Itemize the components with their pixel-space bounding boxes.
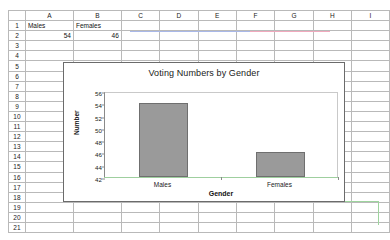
cell-c19[interactable] [121,202,159,212]
cell-c3[interactable] [121,41,159,51]
cell-b1[interactable]: Females [73,21,121,31]
cell-f2[interactable] [236,31,274,41]
cell-i11[interactable] [352,122,390,132]
cell-b3[interactable] [73,41,121,51]
row-header-3[interactable]: 3 [9,41,26,51]
cell-i19[interactable] [352,202,390,212]
cell-g3[interactable] [275,41,313,51]
cell-i3[interactable] [352,41,390,51]
cell-e20[interactable] [198,212,236,222]
cell-d2[interactable] [160,31,198,41]
bar-males[interactable] [139,103,188,177]
cell-i20[interactable] [352,212,390,222]
row-header-5[interactable]: 5 [9,61,26,71]
cell-c4[interactable] [121,51,159,61]
cell-h20[interactable] [313,212,351,222]
row-header-4[interactable]: 4 [9,51,26,61]
row-header-19[interactable]: 19 [9,202,26,212]
cell-d20[interactable] [160,212,198,222]
cell-g2[interactable] [275,31,313,41]
cell-i17[interactable] [352,182,390,192]
cell-i13[interactable] [352,142,390,152]
bar-females[interactable] [256,152,305,177]
cell-f19[interactable] [236,202,274,212]
cell-e4[interactable] [198,51,236,61]
row-header-15[interactable]: 15 [9,162,26,172]
embedded-chart[interactable]: Voting Numbers by Gender Number 42444648… [63,62,345,202]
cell-i5[interactable] [352,61,390,71]
column-header-c[interactable]: C [121,11,159,21]
cell-g19[interactable] [275,202,313,212]
cell-e19[interactable] [198,202,236,212]
cell-a2[interactable]: 54 [25,31,73,41]
cell-b20[interactable] [73,212,121,222]
cell-h21[interactable] [313,222,351,232]
cell-h2[interactable] [313,31,351,41]
cell-e21[interactable] [198,222,236,232]
cell-i10[interactable] [352,111,390,121]
cell-i4[interactable] [352,51,390,61]
cell-i12[interactable] [352,132,390,142]
row-header-7[interactable]: 7 [9,81,26,91]
row-header-14[interactable]: 14 [9,152,26,162]
cell-b21[interactable] [73,222,121,232]
cell-c20[interactable] [121,212,159,222]
row-header-8[interactable]: 8 [9,91,26,101]
row-header-20[interactable]: 20 [9,212,26,222]
cell-d21[interactable] [160,222,198,232]
cell-i15[interactable] [352,162,390,172]
cell-f1[interactable] [236,21,274,31]
row-header-1[interactable]: 1 [9,21,26,31]
cell-d19[interactable] [160,202,198,212]
cell-a21[interactable] [25,222,73,232]
cell-c21[interactable] [121,222,159,232]
cell-h3[interactable] [313,41,351,51]
cell-i9[interactable] [352,101,390,111]
cell-d3[interactable] [160,41,198,51]
cell-f20[interactable] [236,212,274,222]
cell-e3[interactable] [198,41,236,51]
cell-g20[interactable] [275,212,313,222]
column-header-d[interactable]: D [160,11,198,21]
cell-a4[interactable] [25,51,73,61]
row-header-10[interactable]: 10 [9,111,26,121]
cell-g1[interactable] [275,21,313,31]
cell-c2[interactable] [121,31,159,41]
cell-h19[interactable] [313,202,351,212]
select-all-corner[interactable] [9,11,26,21]
cell-i21[interactable] [352,222,390,232]
row-header-21[interactable]: 21 [9,222,26,232]
cell-a20[interactable] [25,212,73,222]
cell-b4[interactable] [73,51,121,61]
column-header-h[interactable]: H [313,11,351,21]
cell-i2[interactable] [352,31,390,41]
cell-i6[interactable] [352,71,390,81]
column-header-i[interactable]: I [352,11,390,21]
cell-h1[interactable] [313,21,351,31]
column-header-f[interactable]: F [236,11,274,21]
cell-c1[interactable] [121,21,159,31]
cell-a1[interactable]: Males [25,21,73,31]
cell-d4[interactable] [160,51,198,61]
row-header-18[interactable]: 18 [9,192,26,202]
row-header-2[interactable]: 2 [9,31,26,41]
cell-b2[interactable]: 46 [73,31,121,41]
cell-d1[interactable] [160,21,198,31]
cell-e2[interactable] [198,31,236,41]
cell-f3[interactable] [236,41,274,51]
cell-b19[interactable] [73,202,121,212]
row-header-17[interactable]: 17 [9,182,26,192]
row-header-9[interactable]: 9 [9,101,26,111]
column-header-b[interactable]: B [73,11,121,21]
row-header-16[interactable]: 16 [9,172,26,182]
column-header-e[interactable]: E [198,11,236,21]
cell-i16[interactable] [352,172,390,182]
cell-f21[interactable] [236,222,274,232]
cell-g21[interactable] [275,222,313,232]
cell-i7[interactable] [352,81,390,91]
row-header-6[interactable]: 6 [9,71,26,81]
cell-f4[interactable] [236,51,274,61]
row-header-12[interactable]: 12 [9,132,26,142]
cell-a19[interactable] [25,202,73,212]
row-header-13[interactable]: 13 [9,142,26,152]
